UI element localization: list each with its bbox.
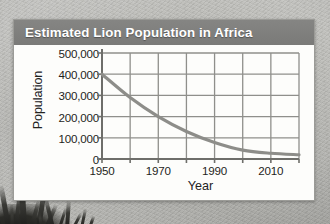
plot-area	[102, 53, 299, 159]
chart-body: Population 0100,000200,000300,000400,000…	[14, 45, 314, 200]
population-trend-line	[102, 74, 299, 155]
y-axis-tick-label: 200,000	[58, 110, 99, 123]
x-axis-tick-label: 1950	[90, 164, 115, 177]
foliage-blade	[88, 215, 95, 224]
x-axis-tick-labels: 1950197019902010	[102, 164, 299, 180]
x-axis-tick-label: 1970	[146, 164, 171, 177]
x-axis-title: Year	[102, 179, 299, 193]
chart-title: Estimated Lion Population in Africa	[25, 25, 253, 40]
y-axis-tick-labels: 0100,000200,000300,000400,000500,000	[41, 53, 99, 159]
chart-header-bar: Estimated Lion Population in Africa	[14, 20, 314, 45]
y-axis-tick-label: 400,000	[58, 68, 99, 81]
y-axis-tick-label: 500,000	[58, 47, 99, 60]
y-axis-tick-label: 300,000	[58, 89, 99, 102]
x-axis-tick-label: 1990	[202, 164, 227, 177]
y-axis-tick-label: 100,000	[58, 131, 99, 144]
plot-svg	[102, 53, 299, 159]
chart-card: Estimated Lion Population in Africa Popu…	[13, 19, 315, 201]
x-axis-tick-label: 2010	[258, 164, 283, 177]
horizontal-gridlines	[102, 53, 299, 138]
